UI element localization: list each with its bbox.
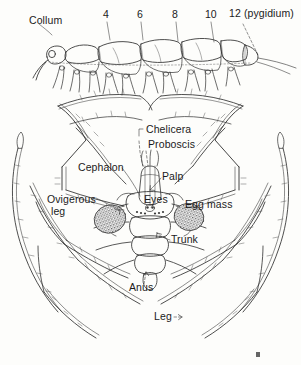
top-leader-lines (39, 22, 258, 55)
label-segment-6: 6 (137, 8, 143, 20)
label-anus: Anus (129, 282, 153, 293)
top-panel-millipede (33, 22, 296, 95)
label-ovigerous-leg-word: leg (51, 206, 65, 217)
label-egg-mass: Egg mass (185, 199, 233, 210)
millipede-body (33, 38, 296, 80)
anatomy-figure (0, 0, 301, 365)
label-chelicera: Chelicera (146, 124, 191, 135)
label-leg: Leg (154, 311, 172, 322)
label-segment-4: 4 (103, 8, 109, 20)
label-pygidium: 12 (pygidium) (229, 8, 294, 19)
label-segment-10: 10 (205, 8, 217, 20)
label-ovigerous: Ovigerous (47, 194, 96, 205)
label-collum: Collum (29, 15, 62, 26)
label-eyes: Eyes (144, 194, 168, 205)
dorsal-arching-legs (58, 94, 243, 124)
scan-artifact-speck (256, 352, 260, 357)
label-trunk: Trunk (171, 234, 198, 245)
label-cephalon: Cephalon (78, 162, 124, 173)
label-palp: Palp (162, 171, 183, 182)
label-segment-8: 8 (172, 8, 178, 20)
label-proboscis: Proboscis (148, 139, 195, 150)
millipede-ventral-plates (68, 57, 245, 75)
